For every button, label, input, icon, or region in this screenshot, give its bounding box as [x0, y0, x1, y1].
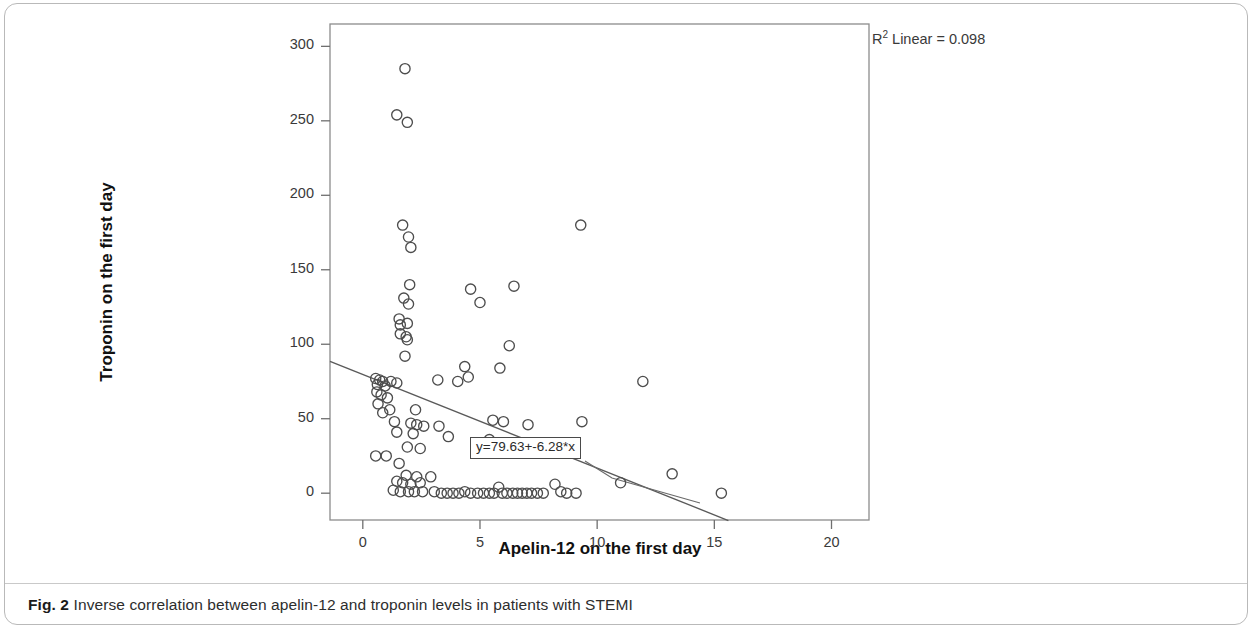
- x-axis-tick-label: 20: [812, 534, 852, 550]
- data-point: [402, 442, 412, 452]
- data-point: [402, 117, 412, 127]
- caption-divider: [5, 583, 1247, 584]
- figure-caption: Fig. 2 Inverse correlation between apeli…: [28, 596, 1208, 614]
- data-point: [615, 478, 625, 488]
- data-point: [442, 488, 452, 498]
- r-squared-value: Linear = 0.098: [888, 31, 985, 47]
- data-point: [523, 420, 533, 430]
- y-axis-tick-label: 0: [272, 483, 314, 499]
- data-point: [406, 242, 416, 252]
- data-point: [371, 451, 381, 461]
- x-axis-tick-label: 10: [577, 534, 617, 550]
- y-axis-tick-label: 200: [272, 185, 314, 201]
- data-point: [434, 421, 444, 431]
- data-point: [392, 427, 402, 437]
- data-point: [405, 280, 415, 290]
- data-point: [381, 451, 391, 461]
- data-point: [498, 417, 508, 427]
- data-point: [571, 488, 581, 498]
- data-point: [562, 488, 572, 498]
- data-point: [398, 220, 408, 230]
- data-point: [419, 421, 429, 431]
- data-point: [478, 488, 488, 498]
- caption-text: Inverse correlation between apelin-12 an…: [74, 596, 633, 613]
- data-point: [488, 415, 498, 425]
- x-axis-tick-label: 5: [460, 534, 500, 550]
- data-point: [403, 232, 413, 242]
- y-axis-tick-label: 150: [272, 260, 314, 276]
- data-point: [410, 405, 420, 415]
- data-point: [448, 488, 458, 498]
- data-point: [388, 485, 398, 495]
- data-point: [509, 281, 519, 291]
- data-point: [426, 472, 436, 482]
- data-point: [495, 363, 505, 373]
- data-point: [402, 318, 412, 328]
- x-axis-tick-label: 0: [343, 534, 383, 550]
- y-axis-tick-label: 50: [272, 409, 314, 425]
- data-point: [463, 372, 473, 382]
- data-point: [538, 488, 548, 498]
- data-point: [577, 417, 587, 427]
- y-axis-title: Troponin on the first day: [97, 117, 117, 447]
- data-point: [667, 469, 677, 479]
- y-axis-tick-label: 100: [272, 334, 314, 350]
- data-point: [460, 361, 470, 371]
- r-squared-annotation: R2 Linear = 0.098: [872, 29, 985, 47]
- figure-number: Fig. 2: [28, 596, 69, 613]
- y-axis-tick-label: 250: [272, 111, 314, 127]
- data-point-group: [371, 64, 727, 499]
- data-point: [443, 431, 453, 441]
- data-point: [392, 110, 402, 120]
- data-point: [716, 488, 726, 498]
- data-point: [429, 487, 439, 497]
- data-point: [389, 417, 399, 427]
- data-point: [436, 488, 446, 498]
- data-point: [532, 488, 542, 498]
- data-point: [504, 341, 514, 351]
- data-point: [394, 458, 404, 468]
- plot-frame: [330, 24, 869, 520]
- data-point: [466, 284, 476, 294]
- figure-container: Troponin on the first day Apelin-12 on t…: [0, 0, 1256, 638]
- data-point: [392, 378, 402, 388]
- data-point: [638, 376, 648, 386]
- x-axis-tick-label: 15: [694, 534, 734, 550]
- data-point: [453, 376, 463, 386]
- equation-leader-line: [585, 461, 700, 503]
- data-point: [433, 375, 443, 385]
- data-point: [576, 220, 586, 230]
- data-point: [400, 351, 410, 361]
- data-point: [415, 443, 425, 453]
- scatter-plot: Troponin on the first day Apelin-12 on t…: [0, 0, 1256, 585]
- data-point: [473, 488, 483, 498]
- data-point: [382, 393, 392, 403]
- data-point: [400, 64, 410, 74]
- data-point: [408, 429, 418, 439]
- plot-canvas: [0, 0, 1256, 585]
- r-squared-symbol: R: [872, 31, 882, 47]
- data-point: [475, 297, 485, 307]
- y-axis-tick-label: 300: [272, 36, 314, 52]
- regression-equation-label: y=79.63+-6.28*x: [470, 437, 581, 459]
